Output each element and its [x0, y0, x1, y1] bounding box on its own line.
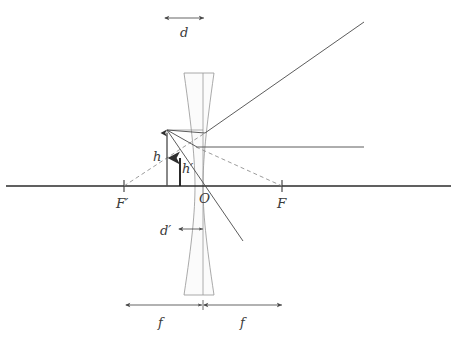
dimension-f-right-label: f [239, 315, 247, 330]
dimension-focal-lengths: f f [126, 300, 282, 330]
optics-ray-diagram: O F′ F h h′ d d′ f f [0, 0, 457, 342]
object-height-label: h [153, 149, 161, 164]
dimension-d-prime-label: d′ [160, 223, 171, 238]
dimension-f-left-label: f [157, 315, 165, 330]
lens-outline [184, 73, 214, 295]
dimension-d: d [165, 18, 204, 40]
focus-left-label: F′ [115, 195, 128, 211]
lens-body [184, 73, 214, 295]
optical-center-label: O [199, 190, 210, 206]
image-height-label: h′ [182, 161, 193, 176]
focus-right-label: F [276, 195, 287, 211]
ray-diagram-canvas: O F′ F h h′ d d′ f f [0, 0, 457, 342]
focal-ray-virtual-extension [196, 147, 282, 186]
parallel-ray-refracted [205, 22, 364, 133]
dimension-d-label: d [180, 25, 188, 40]
